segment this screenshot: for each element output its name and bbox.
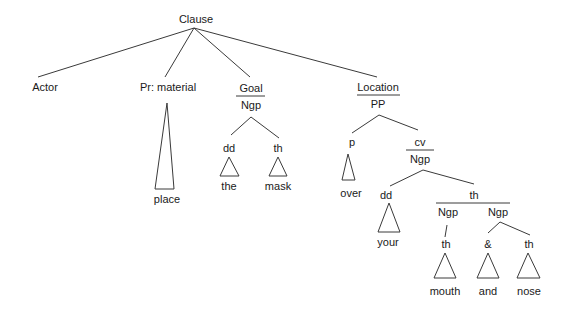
- triangle-mouth: [434, 253, 456, 278]
- node-cv-th: th: [469, 190, 478, 201]
- edge-ngpright-amp: [488, 222, 500, 233]
- node-ngp-left: Ngp: [438, 207, 458, 218]
- node-th-mouth: th: [441, 239, 450, 250]
- edge-clause-actor: [38, 28, 194, 77]
- word-over: over: [340, 188, 361, 199]
- triangle-place: [155, 103, 174, 189]
- node-pp: PP: [371, 99, 386, 110]
- node-goal-th: th: [273, 143, 282, 154]
- node-cv: cv: [415, 137, 426, 148]
- word-and: and: [479, 286, 497, 297]
- word-place: place: [154, 194, 180, 205]
- node-goal-dd: dd: [223, 143, 235, 154]
- node-th-nose: th: [524, 239, 533, 250]
- edge-ngpright-th: [500, 222, 530, 235]
- node-cv-ngp: Ngp: [410, 154, 430, 165]
- word-your: your: [377, 237, 398, 248]
- node-pr-material: Pr: material: [140, 82, 196, 93]
- edge-pp-cv: [379, 115, 418, 130]
- node-goal-ngp: Ngp: [241, 100, 261, 111]
- triangle-and: [477, 253, 499, 278]
- word-nose: nose: [517, 286, 541, 297]
- word-mouth: mouth: [430, 286, 461, 297]
- word-the: the: [221, 181, 236, 192]
- node-ngp-right: Ngp: [488, 207, 508, 218]
- edge-pp-p: [352, 115, 379, 133]
- tree-edges: [0, 0, 562, 316]
- node-actor: Actor: [32, 82, 58, 93]
- node-cv-dd: dd: [380, 190, 392, 201]
- triangle-mask: [269, 157, 287, 176]
- triangle-nose: [517, 253, 540, 278]
- triangle-your: [378, 203, 400, 232]
- node-location: Location: [357, 82, 399, 93]
- syntax-tree-diagram: Clause Actor Pr: material place Goal Ngp…: [0, 0, 562, 316]
- edge-goal-th: [251, 117, 279, 138]
- edge-ngpleft-th: [445, 225, 447, 237]
- triangle-the: [220, 157, 239, 176]
- node-goal: Goal: [239, 83, 262, 94]
- edge-cvngp-th: [423, 170, 474, 184]
- node-p: p: [349, 137, 355, 148]
- node-ampersand: &: [484, 239, 491, 250]
- node-clause: Clause: [179, 14, 213, 25]
- word-mask: mask: [265, 181, 291, 192]
- edge-cvngp-dd: [390, 170, 423, 186]
- triangle-over: [342, 154, 355, 180]
- edge-goal-dd: [231, 117, 251, 135]
